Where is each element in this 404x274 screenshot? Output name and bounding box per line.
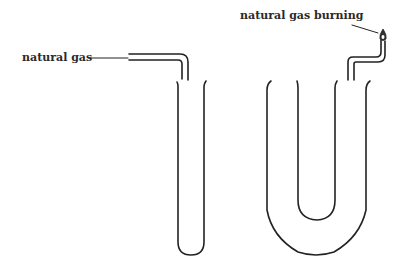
inlet-pipe [129,54,188,80]
diagram-canvas: natural gas natural gas burning [0,0,404,274]
u-tube-inner-wall [297,81,337,220]
straight-tube [177,81,206,255]
flame-icon [380,29,386,41]
outlet-pipe [348,40,385,80]
outlet-pointer-line [352,25,378,33]
u-tube-outer-wall [267,81,370,255]
apparatus-drawing [0,0,404,274]
